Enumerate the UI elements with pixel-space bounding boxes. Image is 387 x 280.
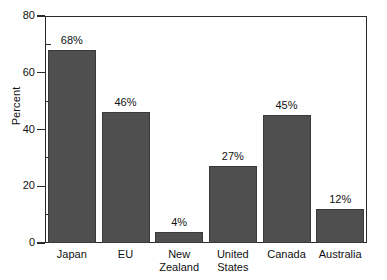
- bar: [263, 115, 311, 243]
- y-axis-tick-label: 80: [0, 9, 35, 21]
- bar: [102, 112, 150, 243]
- bar-chart: Percent 806040200 68%46%4%27%45%12% Japa…: [0, 0, 387, 280]
- y-axis-tick-60: [37, 72, 45, 73]
- bar: [209, 166, 257, 243]
- bar-value-label: 46%: [96, 96, 156, 108]
- category-line: Australia: [308, 248, 372, 261]
- bar: [155, 232, 203, 243]
- y-axis-tick-0: [37, 242, 45, 243]
- x-axis-category-label: Australia: [308, 248, 372, 261]
- y-axis-tick-label: 0: [0, 236, 35, 248]
- category-line: States: [201, 261, 265, 274]
- bar-value-label: 12%: [310, 193, 370, 205]
- bar-value-label: 4%: [149, 216, 209, 228]
- y-axis-tick-label: 60: [0, 66, 35, 78]
- bar: [48, 50, 96, 243]
- bar: [316, 209, 364, 243]
- y-axis-tick-20: [37, 186, 45, 187]
- bar-value-label: 45%: [257, 99, 317, 111]
- y-axis-tick-label: 20: [0, 179, 35, 191]
- bar-value-label: 27%: [203, 150, 263, 162]
- y-axis-tick-40: [37, 129, 45, 130]
- y-axis-tick-label: 40: [0, 123, 35, 135]
- bar-value-label: 68%: [42, 34, 102, 46]
- y-axis-tick-80: [37, 15, 45, 16]
